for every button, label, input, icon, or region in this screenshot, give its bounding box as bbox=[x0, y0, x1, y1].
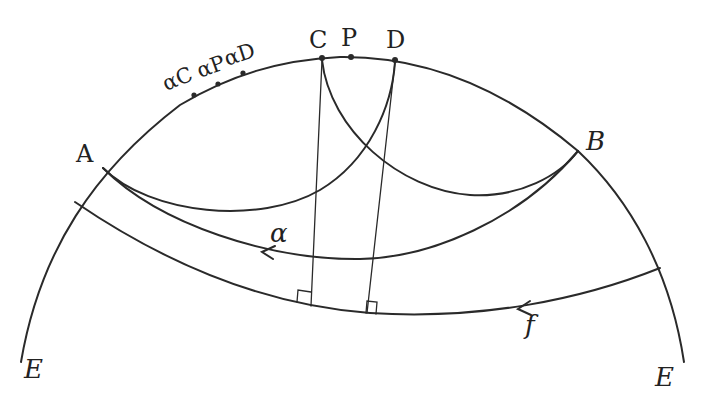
label-alphaD: αD bbox=[221, 38, 258, 70]
label-C: C bbox=[309, 26, 327, 54]
label-alpha: α bbox=[270, 218, 288, 248]
label-f: f bbox=[523, 310, 539, 340]
label-B: B bbox=[585, 126, 605, 156]
label-D: D bbox=[386, 26, 405, 54]
hyperbolic-diagram: C P D αC αP αD A B α f E E bbox=[0, 0, 702, 415]
right-angle-mark-C bbox=[297, 290, 311, 302]
label-P: P bbox=[341, 24, 357, 52]
label-E-left: E bbox=[23, 354, 43, 384]
label-E-right: E bbox=[654, 362, 674, 392]
arc-A-to-D bbox=[103, 62, 395, 211]
label-A: A bbox=[75, 140, 94, 168]
point-alphaC bbox=[191, 92, 196, 97]
perpendicular-from-D bbox=[367, 62, 395, 313]
perpendicular-from-C bbox=[311, 60, 322, 306]
boundary-arc-E bbox=[21, 57, 684, 362]
point-alphaD bbox=[240, 70, 245, 75]
label-alphaC: αC bbox=[159, 62, 196, 96]
point-P bbox=[348, 54, 354, 60]
point-alphaP bbox=[215, 81, 220, 86]
point-C bbox=[319, 55, 325, 61]
arc-C-to-B bbox=[322, 60, 578, 195]
point-D bbox=[392, 57, 398, 63]
